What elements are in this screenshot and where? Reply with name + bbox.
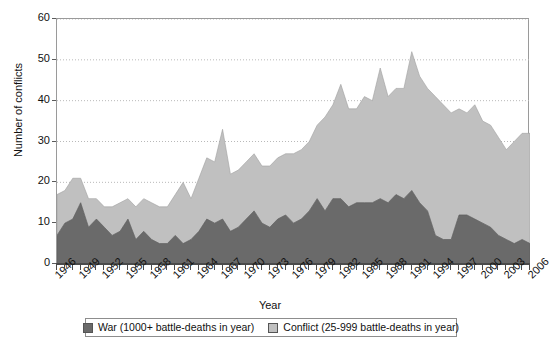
- x-tick-mark: [497, 265, 498, 270]
- x-tick-mark: [111, 265, 112, 270]
- y-tick-label: 0: [28, 257, 50, 268]
- plot-area: [56, 18, 529, 263]
- x-tick-mark: [371, 265, 372, 270]
- x-tick-mark: [64, 265, 65, 270]
- x-tick-mark: [88, 265, 89, 270]
- x-tick-mark: [158, 265, 159, 270]
- x-tick-mark: [300, 265, 301, 270]
- legend-label: Conflict (25-999 battle-deaths in year): [283, 322, 459, 333]
- x-tick-mark: [395, 265, 396, 270]
- x-tick-mark: [182, 265, 183, 270]
- x-tick-mark: [513, 265, 514, 270]
- x-tick-mark: [379, 265, 380, 270]
- x-tick-mark: [450, 265, 451, 270]
- x-tick-mark: [261, 265, 262, 270]
- stacked-area-svg: [57, 19, 530, 264]
- x-tick-mark: [72, 265, 73, 270]
- x-tick-mark: [229, 265, 230, 270]
- y-tick-label: 10: [28, 216, 50, 227]
- x-tick-mark: [490, 265, 491, 270]
- x-tick-mark: [135, 265, 136, 270]
- x-tick-mark: [332, 265, 333, 270]
- legend-label: War (1000+ battle-deaths in year): [98, 322, 254, 333]
- y-tick-label: 20: [28, 175, 50, 186]
- y-axis-title: Number of conflicts: [12, 40, 24, 180]
- x-tick-mark: [119, 265, 120, 270]
- x-tick-mark: [324, 265, 325, 270]
- x-tick-mark: [143, 265, 144, 270]
- x-tick-mark: [166, 265, 167, 270]
- x-axis-title: Year: [0, 299, 540, 311]
- x-tick-mark: [427, 265, 428, 270]
- legend-swatch-icon: [83, 323, 93, 333]
- x-tick-mark: [521, 265, 522, 270]
- legend-swatch-icon: [268, 323, 278, 333]
- x-tick-mark: [277, 265, 278, 270]
- x-tick-mark: [95, 265, 96, 270]
- y-tick-label: 50: [28, 53, 50, 64]
- x-tick-mark: [442, 265, 443, 270]
- x-tick-mark: [206, 265, 207, 270]
- x-tick-mark: [419, 265, 420, 270]
- x-tick-mark: [308, 265, 309, 270]
- x-tick-mark: [474, 265, 475, 270]
- x-tick-mark: [285, 265, 286, 270]
- x-tick-mark: [214, 265, 215, 270]
- y-tick-label: 40: [28, 94, 50, 105]
- y-tick-label: 60: [28, 12, 50, 23]
- x-tick-mark: [403, 265, 404, 270]
- x-tick-mark: [356, 265, 357, 270]
- x-tick-mark: [466, 265, 467, 270]
- y-tick-label: 30: [28, 135, 50, 146]
- legend-item[interactable]: War (1000+ battle-deaths in year): [83, 322, 254, 333]
- x-tick-mark: [237, 265, 238, 270]
- legend-item[interactable]: Conflict (25-999 battle-deaths in year): [268, 322, 459, 333]
- x-tick-mark: [190, 265, 191, 270]
- x-tick-mark: [348, 265, 349, 270]
- x-tick-mark: [253, 265, 254, 270]
- chart-legend: War (1000+ battle-deaths in year)Conflic…: [85, 318, 457, 337]
